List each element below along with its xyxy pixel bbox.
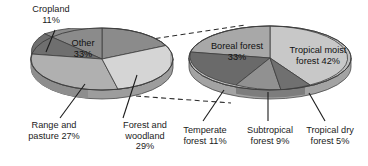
- label-tropical-dry-forest: Tropical dry forest 5%: [292, 125, 368, 146]
- label-cropland-line1: Cropland: [12, 4, 90, 15]
- label-tropical-dry-line1: Tropical dry: [292, 125, 368, 136]
- label-range-pasture: Range and pasture 27%: [6, 120, 102, 141]
- label-other-line2: 33%: [56, 49, 110, 60]
- label-tropical-moist-line1: Tropical moist: [276, 45, 360, 56]
- label-boreal-forest: Boreal forest 33%: [197, 41, 277, 62]
- label-other-line1: Other: [56, 38, 110, 49]
- label-tropical-moist-line2: forest 42%: [276, 56, 360, 67]
- figure-root: Cropland 11% Other 33% Range and pasture…: [0, 0, 368, 166]
- label-range-line1: Range and: [6, 120, 102, 131]
- label-cropland-line2: 11%: [12, 15, 90, 26]
- label-tropical-moist: Tropical moist forest 42%: [276, 45, 360, 66]
- leader-tropical-dry: [309, 93, 325, 121]
- label-range-line2: pasture 27%: [6, 131, 102, 142]
- label-other: Other 33%: [56, 38, 110, 59]
- label-tropical-dry-line2: forest 5%: [292, 136, 368, 147]
- label-boreal-line2: 33%: [197, 52, 277, 63]
- leader-temperate: [203, 90, 224, 121]
- label-boreal-line1: Boreal forest: [197, 41, 277, 52]
- connector-bottom-line: [136, 96, 231, 103]
- label-cropland: Cropland 11%: [12, 4, 90, 25]
